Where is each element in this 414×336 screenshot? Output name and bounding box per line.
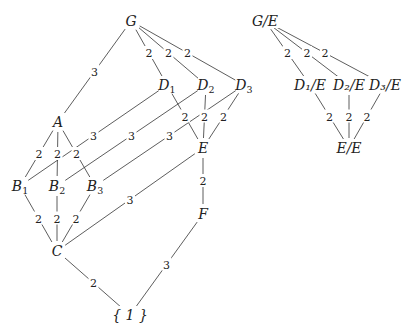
edge-index-label: 3 bbox=[166, 130, 173, 143]
node-label: D bbox=[196, 77, 208, 93]
edge-index-label: 2 bbox=[201, 111, 208, 124]
node-label: G bbox=[125, 13, 136, 29]
node-label: D bbox=[234, 77, 246, 93]
node-label: B bbox=[86, 178, 97, 194]
node-label: D₂/E bbox=[332, 77, 365, 93]
node-A: A bbox=[51, 114, 63, 130]
node-subscript: 1 bbox=[170, 84, 176, 95]
node-label: E/E bbox=[335, 140, 361, 156]
edge-index-label: 2 bbox=[346, 111, 353, 124]
node-subscript: 2 bbox=[209, 84, 215, 95]
edge-index-label: 2 bbox=[220, 111, 227, 124]
lattice-nodes: GD1D2D3AEB1B2B3FC{ 1 }G/ED₁/ED₂/ED₃/EE/E bbox=[11, 12, 402, 323]
edge-index-label: 2 bbox=[364, 111, 371, 124]
node-C: C bbox=[52, 243, 63, 259]
node-label: D bbox=[157, 77, 169, 93]
node-label: D₁/E bbox=[293, 77, 326, 93]
node-label: F bbox=[197, 206, 209, 222]
node-EE: E/E bbox=[335, 140, 361, 156]
edge-index-label: 3 bbox=[163, 259, 170, 272]
node-GE: G/E bbox=[252, 13, 278, 29]
edge-index-label: 3 bbox=[127, 194, 134, 207]
subgroup-lattice-diagram: 32222223332223222223222222 GD1D2D3AEB1B2… bbox=[0, 0, 414, 336]
edge-index-label: 2 bbox=[73, 148, 80, 161]
node-G: G bbox=[125, 13, 136, 29]
edge-index-label: 2 bbox=[182, 111, 189, 124]
edge-index-label: 3 bbox=[91, 66, 98, 79]
node-subscript: 3 bbox=[247, 84, 253, 95]
node-label: A bbox=[51, 114, 63, 130]
node-subscript: 1 bbox=[22, 185, 28, 196]
lattice-edges bbox=[25, 26, 380, 309]
node-label: D₃/E bbox=[368, 77, 401, 93]
edge-index-label: 2 bbox=[304, 47, 311, 60]
edge-index-label: 2 bbox=[90, 277, 97, 290]
edge-index-label: 2 bbox=[200, 175, 207, 188]
edge-index-label: 3 bbox=[90, 130, 97, 143]
edge-index-label: 2 bbox=[284, 47, 291, 60]
edge-index-label: 2 bbox=[54, 148, 61, 161]
node-label: { 1 } bbox=[112, 307, 148, 323]
node-subscript: 3 bbox=[97, 185, 103, 196]
edge-index-label: 2 bbox=[322, 47, 329, 60]
node-label: B bbox=[11, 178, 22, 194]
node-D2E: D₂/E bbox=[332, 77, 365, 93]
node-E: E bbox=[197, 140, 208, 156]
edge-index-label: 2 bbox=[146, 47, 153, 60]
edge-index-label: 2 bbox=[326, 111, 333, 124]
edge-index-label: 2 bbox=[36, 148, 43, 161]
node-one: { 1 } bbox=[112, 307, 148, 323]
edge-index-label: 2 bbox=[165, 47, 172, 60]
edge-index-label: 3 bbox=[128, 130, 135, 143]
node-label: C bbox=[52, 243, 63, 259]
node-label: G/E bbox=[252, 13, 278, 29]
node-subscript: 2 bbox=[59, 185, 65, 196]
edge-index-label: 2 bbox=[35, 213, 42, 226]
edge-index-label: 2 bbox=[54, 213, 61, 226]
node-D3E: D₃/E bbox=[368, 77, 401, 93]
edge-index-label: 2 bbox=[73, 213, 80, 226]
node-D1E: D₁/E bbox=[293, 77, 326, 93]
node-label: B bbox=[48, 178, 59, 194]
node-F: F bbox=[197, 206, 209, 222]
edge-index-label: 2 bbox=[184, 47, 191, 60]
node-label: E bbox=[197, 140, 208, 156]
